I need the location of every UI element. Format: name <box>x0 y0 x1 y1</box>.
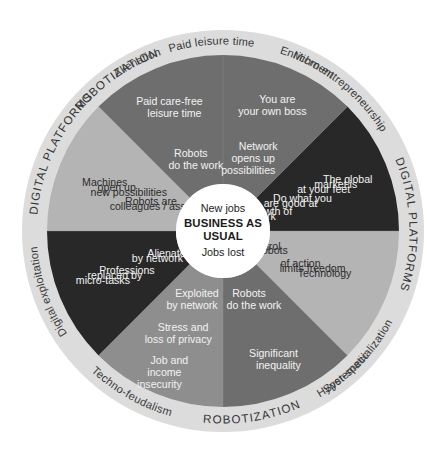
business-as-usual-wheel: Machinesopen upnew possibilitiesRobots a… <box>0 0 427 462</box>
sector-line: loss of privacy <box>145 333 213 345</box>
sector-line: Significant <box>249 347 298 359</box>
sector-line: Stress and <box>158 321 209 333</box>
sector-line: micro-tasks <box>76 274 130 286</box>
hub-title-line-1: BUSINESS AS <box>184 217 262 229</box>
sector-line: Robots <box>174 147 208 159</box>
sector-line: Exploited <box>175 287 219 299</box>
sector-line: possibilities <box>221 164 275 176</box>
sector-line: Job and <box>151 354 189 366</box>
center-hub: New jobsBUSINESS ASUSUALJobs lost <box>176 184 270 278</box>
hub-new-jobs: New jobs <box>201 202 246 214</box>
sector-line: income <box>147 366 181 378</box>
sector-line: Robots <box>232 287 266 299</box>
diagram-canvas: Machinesopen upnew possibilitiesRobots a… <box>0 0 427 462</box>
sector-line: Paid care-free <box>136 95 203 107</box>
hub-title-line-2: USUAL <box>203 230 243 242</box>
sector-line: leisure time <box>147 107 201 119</box>
sector-line: You are <box>259 93 295 105</box>
sector-line: do the work <box>168 159 223 171</box>
hub-jobs-lost: Jobs lost <box>202 246 245 258</box>
sector-line: Network <box>239 140 279 152</box>
sector-line: opens up <box>231 152 275 164</box>
sector-line: your own boss <box>238 105 306 117</box>
sector-line: do the work <box>227 299 282 311</box>
sector-line: by network <box>166 299 218 311</box>
sector-line: by network <box>132 252 184 264</box>
sector-line: of action <box>281 257 321 269</box>
sector-line: inequality <box>256 359 301 371</box>
sector-line: insecurity <box>137 378 182 390</box>
